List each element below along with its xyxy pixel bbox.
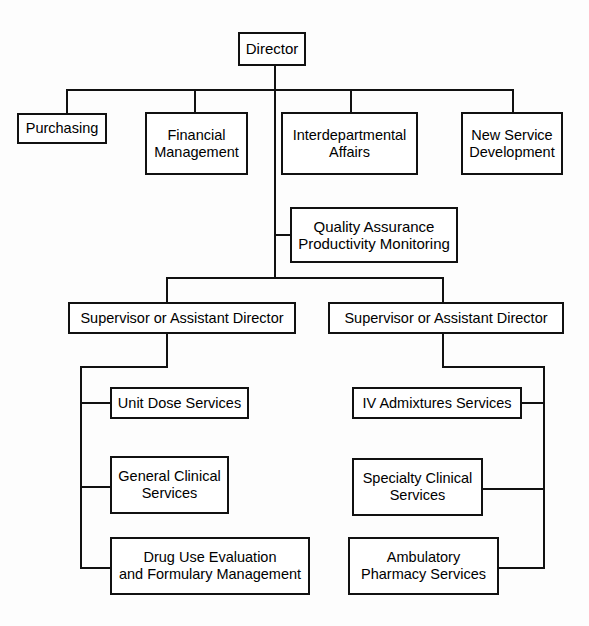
node-supervisor-left-label: Supervisor or Assistant Director: [75, 310, 288, 327]
node-director-label: Director: [241, 40, 304, 57]
connector-left-branch-unit-dose: [80, 402, 112, 404]
connector-supervisor-left-stem: [166, 334, 168, 367]
node-financial-management-label: Financial Management: [149, 127, 244, 161]
node-director: Director: [238, 32, 306, 66]
connector-supervisor-right-stem: [442, 334, 444, 367]
node-new-service-development-label: New Service Development: [464, 127, 559, 161]
node-drug-use-evaluation: Drug Use Evaluation and Formulary Manage…: [110, 537, 310, 595]
node-drug-use-evaluation-label: Drug Use Evaluation and Formulary Manage…: [114, 549, 306, 583]
node-ambulatory-pharmacy-services-label: Ambulatory Pharmacy Services: [356, 549, 491, 583]
node-specialty-clinical-services: Specialty Clinical Services: [352, 458, 483, 516]
node-ambulatory-pharmacy-services: Ambulatory Pharmacy Services: [348, 537, 499, 595]
node-purchasing-label: Purchasing: [21, 120, 104, 137]
connector-drop-purchasing: [66, 89, 68, 114]
connector-main-trunk: [274, 89, 276, 279]
node-supervisor-right: Supervisor or Assistant Director: [328, 302, 564, 334]
node-general-clinical-services-label: General Clinical Services: [113, 468, 225, 502]
node-supervisor-right-label: Supervisor or Assistant Director: [339, 310, 552, 327]
node-specialty-clinical-services-label: Specialty Clinical Services: [358, 470, 478, 504]
org-chart-canvas: Director Purchasing Financial Management…: [0, 0, 589, 626]
node-unit-dose-services: Unit Dose Services: [110, 387, 249, 419]
connector-drop-new-service: [512, 89, 514, 113]
node-iv-admixtures-services-label: IV Admixtures Services: [357, 395, 516, 412]
connector-left-column-top: [80, 366, 168, 368]
connector-right-branch-iv-admixtures: [521, 402, 545, 404]
connector-drop-supervisor-left: [166, 277, 168, 303]
connector-left-column-spine: [80, 366, 82, 569]
connector-staff-bus: [66, 89, 514, 91]
node-interdepartmental-affairs: Interdepartmental Affairs: [281, 112, 418, 175]
connector-director-stem: [274, 66, 276, 90]
node-new-service-development: New Service Development: [461, 112, 563, 175]
node-supervisor-left: Supervisor or Assistant Director: [68, 302, 296, 334]
node-unit-dose-services-label: Unit Dose Services: [113, 395, 246, 412]
node-quality-assurance-label: Quality Assurance Productivity Monitorin…: [293, 218, 455, 253]
connector-right-branch-specialty-clinical: [481, 488, 545, 490]
node-general-clinical-services: General Clinical Services: [110, 456, 229, 514]
connector-supervisor-bus: [166, 277, 444, 279]
connector-left-branch-drug-use: [80, 567, 112, 569]
node-purchasing: Purchasing: [17, 113, 107, 144]
connector-right-branch-ambulatory: [497, 567, 545, 569]
connector-drop-financial: [194, 89, 196, 113]
connector-right-column-top: [442, 366, 545, 368]
connector-right-column-spine: [543, 366, 545, 569]
node-financial-management: Financial Management: [145, 112, 248, 175]
node-quality-assurance: Quality Assurance Productivity Monitorin…: [290, 207, 458, 263]
connector-drop-interdepartmental: [350, 89, 352, 113]
connector-left-branch-general-clinical: [80, 486, 112, 488]
node-interdepartmental-affairs-label: Interdepartmental Affairs: [288, 127, 412, 161]
connector-drop-supervisor-right: [442, 277, 444, 303]
node-iv-admixtures-services: IV Admixtures Services: [352, 387, 522, 419]
